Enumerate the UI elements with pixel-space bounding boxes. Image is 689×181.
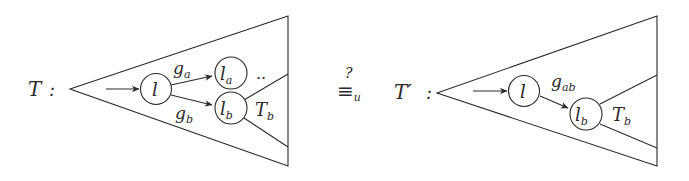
left-edge-ga-label: ga (173, 58, 190, 81)
right-edge-gab-label: gab (551, 71, 576, 94)
tree-equivalence-diagram: T : l ga gb la lb .. (0, 0, 689, 181)
right-root-node-label: l (520, 81, 526, 102)
left-tree-colon: : (49, 79, 55, 100)
right-tree-colon: : (426, 82, 432, 103)
right-subtree-label: Tb (612, 104, 631, 128)
left-tree: T : l ga gb la lb .. (28, 16, 288, 166)
right-edge-gab-arrow (540, 96, 568, 108)
left-subtree-lower-line (244, 118, 288, 147)
right-subtree-upper-line (600, 75, 657, 104)
left-tree-name: T (28, 77, 43, 101)
left-tree-triangle (70, 16, 288, 166)
left-subtree-label: Tb (255, 99, 274, 123)
left-root-node-label: l (152, 79, 158, 100)
right-tree-name: T′ (394, 80, 412, 104)
relation-symbol: ≡u (337, 79, 361, 104)
right-tree: T′ : l gab lb Tb (394, 16, 657, 166)
equivalence-relation: ? ≡u (337, 65, 361, 104)
left-edge-gb-label: gb (175, 103, 193, 126)
right-tree-triangle (437, 16, 657, 166)
left-ellipsis: .. (256, 64, 266, 83)
